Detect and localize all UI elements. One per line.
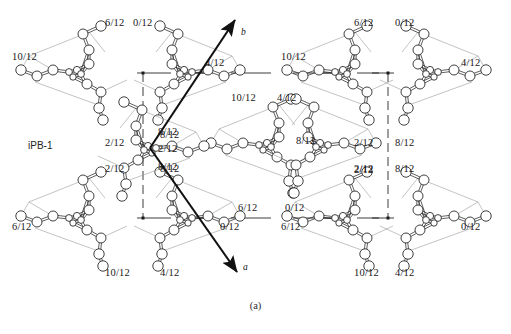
atom-circle-14 [289, 188, 299, 198]
height-label-m9-2: 10/12 [354, 268, 379, 279]
atom-circle-6 [423, 217, 430, 224]
atom-circle-11 [169, 79, 179, 89]
atom-circle-8 [238, 138, 248, 148]
atom-circle-3 [84, 59, 94, 69]
atom-circle-14 [364, 115, 374, 125]
axis-label-a: a [243, 262, 248, 272]
atom-circle-2 [303, 118, 313, 128]
atom-circle-2 [413, 45, 423, 55]
atom-circle-7 [336, 220, 342, 226]
atom-circle-12 [362, 233, 372, 243]
atom-circle-6 [344, 71, 351, 78]
molecule-m10 [380, 167, 491, 271]
atom-circle-13 [293, 176, 303, 186]
atom-circle-3 [84, 205, 94, 215]
atom-circle-11 [82, 79, 92, 89]
atom-circle-12 [155, 87, 165, 97]
atom-circle-1 [344, 175, 354, 185]
figure-caption: (a) [0, 300, 511, 311]
atom-circle-2 [84, 45, 94, 55]
height-label-m7-2: 10/12 [105, 268, 130, 279]
height-label-m1-2: 2/12 [105, 138, 124, 149]
atom-circle-3 [167, 205, 177, 215]
atom-circle-13 [403, 249, 413, 259]
atom-circle-13 [157, 103, 167, 113]
atom-circle-3 [131, 135, 141, 145]
atom-circle-11 [133, 155, 143, 165]
atom-circle-11 [415, 225, 425, 235]
atom-circle-2 [274, 118, 284, 128]
atom-circle-13 [94, 103, 104, 113]
height-label-m5-0: 10/12 [231, 93, 256, 104]
atom-circle-11 [415, 79, 425, 89]
atom-circle-9 [32, 217, 42, 227]
atom-circle-12 [362, 87, 372, 97]
atom-circle-3 [350, 205, 360, 215]
atom-circle-7 [260, 147, 266, 153]
height-label-m4-2: 8/12 [395, 138, 414, 149]
atom-circle-8 [48, 65, 58, 75]
atom-circle-10 [235, 65, 245, 75]
height-label-m1-1: 10/12 [12, 52, 37, 63]
atom-circle-9 [222, 144, 232, 154]
height-label-m6-2: 0/12 [285, 203, 304, 214]
molecule-m1 [16, 21, 127, 125]
atom-circle-7 [70, 74, 76, 80]
height-label-m4-0: 0/12 [395, 18, 414, 29]
height-label-m9-1: 6/12 [281, 222, 300, 233]
height-label-m8-2: 4/12 [160, 268, 179, 279]
atom-circle-0 [119, 97, 129, 107]
molecule-m11 [98, 97, 209, 201]
atom-circle-10 [16, 65, 26, 75]
height-label-m10-2: 4/12 [395, 268, 414, 279]
axis-label-b: b [241, 27, 246, 37]
atom-circle-8 [449, 65, 459, 75]
molecule-m4 [380, 21, 491, 125]
atom-circle-12 [401, 233, 411, 243]
atom-circle-11 [305, 152, 315, 162]
height-label-m3-2: 2/12 [354, 138, 373, 149]
atom-circle-12 [155, 233, 165, 243]
atom-circle-13 [94, 249, 104, 259]
atom-circle-2 [131, 121, 141, 131]
height-label-m9-0: 2/12 [354, 164, 373, 175]
height-label-m5-1: 8/12 [296, 136, 315, 147]
atom-circle-1 [419, 29, 429, 39]
atom-circle-12 [96, 87, 106, 97]
atom-circle-1 [268, 102, 278, 112]
atom-circle-2 [84, 191, 94, 201]
atom-circle-10 [282, 65, 292, 75]
atom-circle-3 [274, 132, 284, 142]
cell-corner-marker-0 [142, 72, 145, 75]
height-label-m3-0: 6/12 [354, 18, 373, 29]
atom-circle-14 [117, 191, 127, 201]
atom-circle-1 [309, 102, 319, 112]
height-label-m10-0: 8/12 [395, 164, 414, 175]
atom-circle-10 [199, 141, 209, 151]
molecule-layer [16, 21, 491, 271]
atom-circle-13 [403, 103, 413, 113]
height-label-m2-1: 4/12 [205, 58, 224, 69]
atom-circle-7 [431, 220, 437, 226]
atom-circle-13 [121, 179, 131, 189]
atom-circle-13 [360, 249, 370, 259]
atom-circle-3 [413, 205, 423, 215]
atom-circle-1 [419, 175, 429, 185]
atom-circle-7 [185, 74, 191, 80]
molecule-m7 [16, 167, 127, 271]
atom-circle-2 [413, 191, 423, 201]
atom-circle-10 [481, 65, 491, 75]
atom-circle-1 [78, 29, 88, 39]
atom-circle-12 [291, 160, 301, 170]
atom-circle-1 [137, 105, 147, 115]
height-label-m11-0: 8/12 [158, 127, 177, 138]
atom-circle-11 [348, 79, 358, 89]
atom-circle-6 [141, 147, 148, 154]
atom-circle-9 [298, 71, 308, 81]
atom-circle-2 [167, 191, 177, 201]
height-label-m11-2: 8/12 [158, 162, 177, 173]
atom-circle-7 [431, 74, 437, 80]
height-label-m4-1: 4/12 [461, 58, 480, 69]
crystal-structure-figure: 6/1210/122/120/124/128/126/1210/122/120/… [0, 0, 511, 334]
height-label-m10-1: 0/12 [461, 222, 480, 233]
